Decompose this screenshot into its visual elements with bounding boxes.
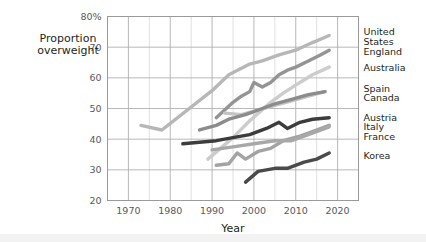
y-tick-label: 20 <box>89 195 101 206</box>
x-tick-label: 1980 <box>158 205 182 216</box>
series-label-australia: Australia <box>364 62 406 73</box>
y-tick-label: 60 <box>89 72 101 83</box>
series-label-korea: Korea <box>364 150 391 161</box>
y-axis-title-line2: overweight <box>37 44 99 57</box>
y-tick-label: 50 <box>89 103 101 114</box>
y-axis-title: Proportionoverweight <box>37 32 99 57</box>
x-tick-label: 2020 <box>325 205 349 216</box>
y-tick-label: 30 <box>89 164 101 175</box>
x-tick-label: 1970 <box>116 205 140 216</box>
x-tick-label: 2010 <box>284 205 308 216</box>
x-tick-label: 2000 <box>242 205 266 216</box>
series-label-france: France <box>364 131 396 142</box>
x-tick-label: 1990 <box>200 205 224 216</box>
series-label-england: England <box>364 46 403 57</box>
line-chart: 20304050607080%197019801990200020102020Y… <box>0 0 426 242</box>
y-tick-label: 40 <box>89 134 101 145</box>
y-tick-label: 80% <box>80 11 101 22</box>
x-axis-ticks: 197019801990200020102020 <box>116 205 349 216</box>
series-labels: UnitedStatesEnglandAustraliaSpainCanadaA… <box>364 26 406 162</box>
series-label-canada: Canada <box>364 92 400 103</box>
chart-figure: 20304050607080%197019801990200020102020Y… <box>0 0 426 242</box>
x-axis-title: Year <box>220 222 245 235</box>
bottom-divider <box>0 234 426 242</box>
